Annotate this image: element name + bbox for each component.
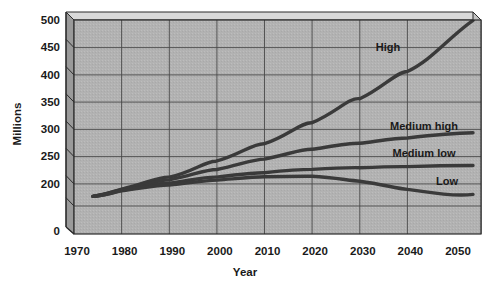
x-tick-label-2050: 2050 xyxy=(445,245,471,257)
series-label-low: Low xyxy=(436,175,458,187)
x-tick-label-2000: 2000 xyxy=(207,245,233,257)
y-tick-label-300: 300 xyxy=(41,123,60,135)
x-tick-label-2010: 2010 xyxy=(255,245,281,257)
x-tick-label-2020: 2020 xyxy=(302,245,328,257)
y-tick-label-500: 500 xyxy=(41,14,60,26)
y-tick-label-200: 200 xyxy=(41,178,60,190)
y-tick-label-0: 0 xyxy=(54,225,60,237)
x-tick-label-1990: 1990 xyxy=(160,245,186,257)
x-tick-label-1980: 1980 xyxy=(112,245,138,257)
series-label-high: High xyxy=(376,41,401,53)
population-projection-chart: High Medium high Medium low Low 500 450 … xyxy=(0,0,501,291)
chart-svg: High Medium high Medium low Low 500 450 … xyxy=(0,0,501,291)
x-tick-label-1970: 1970 xyxy=(64,245,90,257)
y-tick-label-400: 400 xyxy=(41,69,60,81)
x-tick-label-2040: 2040 xyxy=(398,245,424,257)
series-label-medium-high: Medium high xyxy=(390,120,458,132)
series-label-medium-low: Medium low xyxy=(393,147,456,159)
plot-top-panel xyxy=(66,12,481,20)
y-tick-label-350: 350 xyxy=(41,96,60,108)
x-axis-title: Year xyxy=(233,266,258,278)
y-axis-title: Millions xyxy=(11,103,23,146)
x-tick-labels: 1970 1980 1990 2000 2010 2020 2030 2040 … xyxy=(64,245,471,257)
x-tick-label-2030: 2030 xyxy=(350,245,376,257)
y-tick-label-250: 250 xyxy=(41,150,60,162)
y-tick-label-450: 450 xyxy=(41,41,60,53)
